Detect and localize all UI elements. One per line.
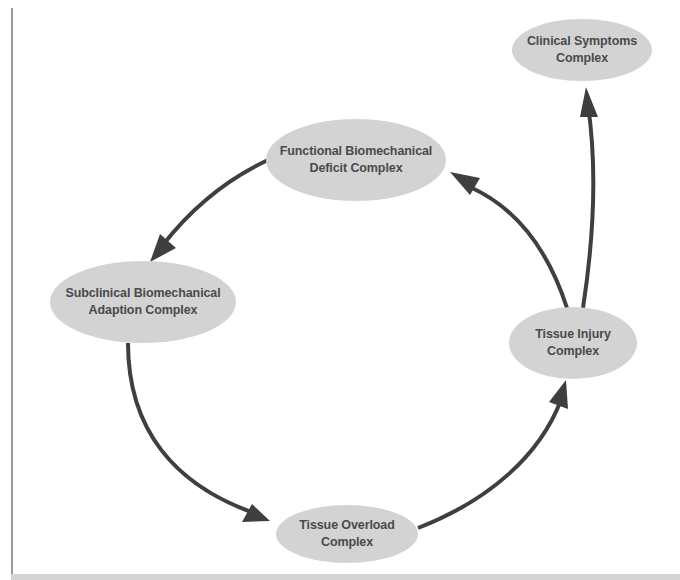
arrow-subclinical-to-overload xyxy=(128,343,254,513)
node-label-line2: Deficit Complex xyxy=(310,160,403,177)
node-label-line1: Functional Biomechanical xyxy=(280,143,433,160)
node-label-line2: Complex xyxy=(547,343,599,360)
node-tissue-overload: Tissue Overload Complex xyxy=(276,505,418,563)
node-tissue-injury: Tissue Injury Complex xyxy=(509,307,637,379)
arrow-functional-to-subclinical xyxy=(162,160,268,246)
node-subclinical-adaption: Subclinical Biomechanical Adaption Compl… xyxy=(50,261,236,343)
node-label-line1: Subclinical Biomechanical xyxy=(65,285,220,302)
node-label-line1: Tissue Overload xyxy=(299,517,395,534)
arrowhead-icon xyxy=(580,87,598,117)
node-label-line2: Complex xyxy=(556,50,608,67)
node-label-line1: Tissue Injury xyxy=(535,326,611,343)
node-label-line2: Complex xyxy=(321,534,373,551)
node-functional-deficit: Functional Biomechanical Deficit Complex xyxy=(266,119,446,201)
arrow-injury-to-clinical xyxy=(583,105,593,308)
node-clinical-symptoms: Clinical Symptoms Complex xyxy=(512,19,652,81)
arrowhead-icon xyxy=(549,380,568,409)
arrow-injury-to-functional xyxy=(470,187,567,308)
arrowhead-icon xyxy=(242,504,270,522)
node-label-line2: Adaption Complex xyxy=(89,302,198,319)
node-label-line1: Clinical Symptoms xyxy=(527,33,637,50)
arrow-overload-to-injury xyxy=(418,400,561,528)
arrowhead-icon xyxy=(150,234,176,262)
